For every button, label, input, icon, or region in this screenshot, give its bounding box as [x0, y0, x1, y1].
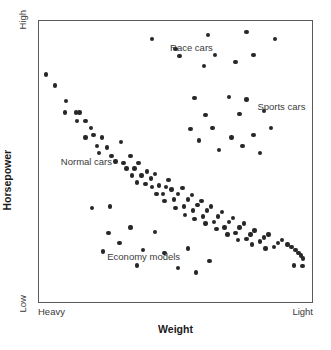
data-point: [251, 133, 255, 137]
data-point: [177, 54, 181, 58]
data-point: [53, 83, 57, 87]
data-point: [248, 232, 252, 236]
data-point: [150, 37, 154, 41]
data-point: [195, 203, 199, 207]
data-point: [100, 135, 104, 139]
data-point: [269, 126, 273, 130]
data-point: [136, 161, 140, 165]
data-point: [209, 204, 213, 208]
data-point: [113, 159, 117, 163]
data-point: [231, 216, 235, 220]
data-point: [101, 249, 105, 253]
data-point: [194, 270, 198, 274]
data-point: [250, 242, 254, 246]
data-point: [166, 178, 170, 182]
y-axis-high-label: High: [18, 10, 28, 30]
data-point: [121, 161, 125, 165]
data-point: [273, 37, 277, 41]
data-point: [233, 60, 237, 64]
data-point: [169, 187, 173, 191]
data-point: [182, 204, 186, 208]
data-point: [220, 210, 224, 214]
data-point: [44, 72, 48, 76]
data-point: [153, 172, 157, 176]
data-point: [106, 231, 110, 235]
data-point: [258, 151, 262, 155]
data-point: [227, 95, 231, 99]
data-point: [63, 110, 67, 114]
data-point: [272, 245, 276, 249]
data-point: [77, 110, 81, 114]
data-point: [139, 173, 143, 177]
data-point: [89, 126, 93, 130]
data-point: [202, 64, 206, 68]
cluster-label: Normal cars: [61, 157, 112, 167]
y-axis-title: Horsepower: [2, 150, 13, 211]
data-point: [172, 197, 176, 201]
data-point: [229, 135, 233, 139]
data-point: [201, 214, 205, 218]
data-point: [292, 263, 296, 267]
cluster-label: Race cars: [170, 43, 213, 53]
data-point: [214, 227, 218, 231]
data-point: [143, 182, 147, 186]
data-point: [236, 238, 240, 242]
data-point: [300, 264, 304, 268]
data-point: [128, 225, 132, 229]
data-point: [83, 119, 87, 123]
data-point: [244, 237, 248, 241]
data-point: [217, 148, 221, 152]
data-point: [176, 192, 180, 196]
data-point: [212, 220, 216, 224]
data-point: [227, 220, 231, 224]
data-point: [149, 176, 153, 180]
data-point: [233, 231, 237, 235]
data-point: [75, 119, 79, 123]
data-point: [157, 183, 161, 187]
data-point: [95, 144, 99, 148]
data-point: [162, 199, 166, 203]
cluster-label: Economy models: [107, 252, 180, 262]
data-point: [207, 259, 211, 263]
data-point: [192, 217, 196, 221]
data-point: [135, 180, 139, 184]
data-point: [203, 221, 207, 225]
data-point: [180, 186, 184, 190]
data-point: [117, 241, 121, 245]
data-point: [188, 127, 192, 131]
data-point: [205, 208, 209, 212]
data-point: [203, 113, 207, 117]
data-point: [216, 214, 220, 218]
data-point: [301, 256, 305, 260]
data-point: [210, 126, 214, 130]
data-point: [130, 173, 134, 177]
data-point: [176, 266, 180, 270]
data-point: [124, 166, 128, 170]
data-point: [135, 263, 139, 267]
data-point: [186, 197, 190, 201]
data-point: [199, 199, 203, 203]
data-point: [237, 225, 241, 229]
data-point: [222, 225, 226, 229]
data-point: [128, 154, 132, 158]
data-point: [150, 185, 154, 189]
data-point: [173, 206, 177, 210]
x-axis-title: Weight: [38, 324, 313, 335]
y-axis-low-label: Low: [18, 295, 28, 312]
x-axis-heavy-label: Heavy: [38, 307, 65, 317]
data-point: [237, 112, 241, 116]
data-point: [197, 138, 201, 142]
data-point: [91, 133, 95, 137]
data-point: [244, 30, 248, 34]
data-point: [164, 185, 168, 189]
data-point: [154, 192, 158, 196]
data-point: [119, 140, 123, 144]
data-point: [263, 246, 267, 250]
data-point: [266, 232, 270, 236]
data-point: [258, 239, 262, 243]
data-point: [83, 135, 87, 139]
x-axis-light-label: Light: [292, 307, 313, 317]
data-point: [252, 228, 256, 232]
data-point: [240, 144, 244, 148]
data-point: [105, 145, 109, 149]
